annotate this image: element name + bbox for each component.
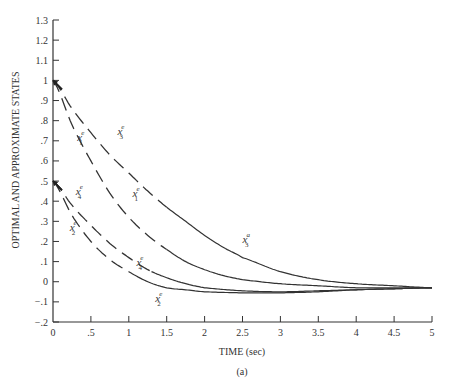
y-tick-label: .6 <box>41 155 49 166</box>
y-tick-label: .2 <box>41 236 49 247</box>
chart: 0.511.522.533.544.55 −.2−.10.1.2.3.4.5.6… <box>0 0 455 384</box>
y-tick-label: .1 <box>41 256 49 267</box>
y-tick-label: .4 <box>41 196 49 207</box>
curve-x1-optimal <box>167 250 432 288</box>
x-tick-label: 1 <box>126 327 131 338</box>
curve-x2-optimal <box>129 272 432 293</box>
x-axis-title: TIME (sec) <box>219 346 265 358</box>
series-label-x2: xe2 <box>154 290 162 308</box>
y-tick-label: 0 <box>43 276 48 287</box>
y-tick-label: −.1 <box>35 296 48 307</box>
x-ticks: 0.511.522.533.544.55 <box>51 316 435 338</box>
series-label-x1: xe1 <box>76 129 84 147</box>
y-tick-label: .5 <box>41 176 49 187</box>
y-axis-title: OPTIMAL AND APPROXIMATE STATES <box>10 72 21 249</box>
x-tick-label: 4 <box>354 327 359 338</box>
x-tick-label: .5 <box>87 327 95 338</box>
axes <box>53 20 432 322</box>
x-tick-label: 1.5 <box>160 327 173 338</box>
y-tick-label: .3 <box>41 216 49 227</box>
y-tick-label: .9 <box>41 95 49 106</box>
y-tick-label: 1.2 <box>36 35 49 46</box>
x-tick-label: 4.5 <box>388 327 401 338</box>
y-tick-label: .8 <box>41 115 49 126</box>
y-tick-label: −.2 <box>35 317 48 328</box>
curve-x3-approximate <box>53 80 167 207</box>
x-tick-label: 2.5 <box>236 327 249 338</box>
y-tick-label: .7 <box>41 135 49 146</box>
curves <box>53 80 432 293</box>
y-tick-label: 1.1 <box>36 55 49 66</box>
series-label-x2: xe2 <box>69 219 77 237</box>
y-tick-label: 1 <box>43 75 48 86</box>
x-tick-label: 5 <box>430 327 435 338</box>
x-tick-label: 2 <box>202 327 207 338</box>
series-label-x4: xe4 <box>75 183 83 201</box>
y-tick-label: 1.3 <box>36 15 49 26</box>
series-label-x1: xe1 <box>132 185 140 203</box>
series-labels: xe3xa3xe1xe1xe4xe4xe2xe2 <box>69 123 251 308</box>
x-tick-label: 0 <box>51 327 56 338</box>
series-label-x3: xa3 <box>242 231 251 249</box>
series-label-x4: xe4 <box>135 254 143 272</box>
y-ticks: −.2−.10.1.2.3.4.5.6.7.8.911.11.21.3 <box>35 15 59 328</box>
curve-x3-optimal <box>167 207 432 288</box>
x-tick-label: 3.5 <box>312 327 325 338</box>
figure-caption: (a) <box>236 366 247 378</box>
series-label-x3: xe3 <box>116 123 124 141</box>
curve-x2-approximate <box>53 181 129 272</box>
x-tick-label: 3 <box>278 327 283 338</box>
